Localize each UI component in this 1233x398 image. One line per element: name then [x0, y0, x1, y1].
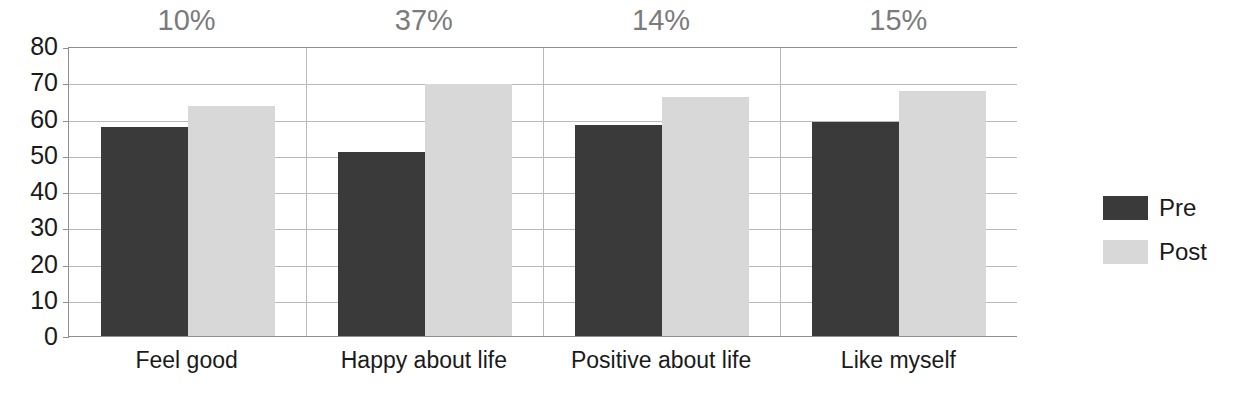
y-axis-tick-label: 70: [0, 70, 58, 95]
bar-pre[interactable]: [812, 122, 899, 336]
bar-pre[interactable]: [575, 125, 662, 336]
x-axis: Feel good Happy about life Positive abou…: [68, 340, 1017, 380]
y-axis-tick-label: 50: [0, 143, 58, 168]
legend-label-pre: Pre: [1159, 196, 1196, 220]
x-axis-category-label: Positive about life: [543, 340, 780, 380]
legend-item-pre[interactable]: Pre: [1103, 186, 1233, 230]
bar-group-positive-about-life: [543, 48, 780, 336]
bar-post[interactable]: [425, 84, 512, 336]
y-axis: 80 70 60 50 40 30 20 10 0: [0, 47, 58, 337]
percent-annotation-row: 10% 37% 14% 15%: [68, 0, 1017, 44]
x-axis-category-label: Like myself: [780, 340, 1017, 380]
percent-annotation: 14%: [543, 0, 780, 44]
legend-item-post[interactable]: Post: [1103, 230, 1233, 274]
y-axis-tick-label: 30: [0, 215, 58, 240]
y-axis-tick-label: 40: [0, 179, 58, 204]
y-axis-tick-label: 20: [0, 252, 58, 277]
bar-pre[interactable]: [338, 152, 425, 336]
bar-post[interactable]: [899, 91, 986, 336]
legend-label-post: Post: [1159, 240, 1207, 264]
x-axis-category-label: Happy about life: [305, 340, 542, 380]
y-axis-tick-label: 0: [0, 324, 58, 349]
percent-annotation: 15%: [780, 0, 1017, 44]
bar-group-like-myself: [780, 48, 1017, 336]
bar-post[interactable]: [188, 106, 275, 336]
bar-pre[interactable]: [101, 127, 188, 336]
y-axis-tick-label: 10: [0, 288, 58, 313]
x-axis-category-label: Feel good: [68, 340, 305, 380]
percent-annotation: 10%: [68, 0, 305, 44]
bar-post[interactable]: [662, 97, 749, 336]
bar-groups: [69, 48, 1017, 336]
legend-swatch-post: [1103, 240, 1148, 264]
percent-annotation: 37%: [305, 0, 542, 44]
legend: Pre Post: [1103, 186, 1233, 274]
grouped-bar-chart: 10% 37% 14% 15% 80 70 60 50 40 30 20 10 …: [0, 0, 1233, 398]
bar-group-feel-good: [69, 48, 306, 336]
legend-swatch-pre: [1103, 196, 1148, 220]
bar-group-happy-about-life: [306, 48, 543, 336]
plot-area: [68, 47, 1017, 337]
y-axis-tick-label: 80: [0, 34, 58, 59]
y-tickmark: [63, 337, 69, 338]
y-axis-tick-label: 60: [0, 107, 58, 132]
